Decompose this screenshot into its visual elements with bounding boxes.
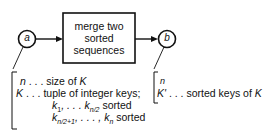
arrowhead-icon: [56, 36, 63, 42]
process-box-label: merge two sorted sequences: [63, 13, 135, 63]
process-line-2: sorted: [84, 32, 113, 44]
process-line-3: sequences: [74, 44, 125, 56]
input-leader-line: [13, 47, 23, 69]
output-node-label: b: [159, 32, 175, 43]
output-annotation-line-1: n: [160, 75, 165, 87]
input-node-label: a: [19, 32, 35, 43]
process-line-1: merge two: [74, 20, 123, 32]
output-leader-line: [154, 47, 164, 69]
output-annotation-line-2: K' . . . sorted keys of K: [157, 87, 262, 99]
arrowhead-icon: [151, 36, 158, 42]
input-annotation-line-2: K . . . tuple of integer keys;: [16, 87, 140, 99]
input-bracket: [12, 72, 17, 129]
input-annotation-line-4: kn/2+1, . . . , kn sorted: [52, 111, 145, 128]
input-annotation-line-1: n . . . size of K: [20, 75, 87, 87]
